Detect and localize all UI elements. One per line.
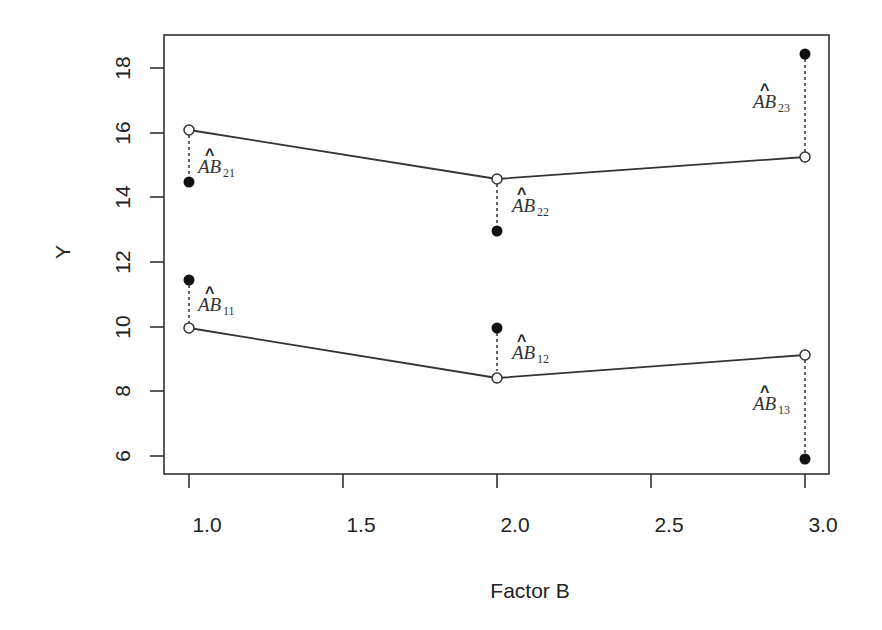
- x-tick-label: 2.5: [654, 513, 683, 536]
- annotation-ab21: ^ AB 21: [196, 146, 235, 180]
- y-tick-labels: 6 8 10 12 14 16 18: [111, 56, 134, 462]
- svg-text:AB: AB: [751, 393, 777, 414]
- svg-text:AB: AB: [510, 342, 536, 363]
- y-tick-label: 8: [111, 385, 134, 397]
- svg-text:21: 21: [223, 166, 235, 180]
- svg-text:AB: AB: [510, 195, 536, 216]
- x-tick-labels: 1.0 1.5 2.0 2.5 3.0: [192, 513, 837, 536]
- interaction-chart: 6 8 10 12 14 16 18 Y 1.0 1.5 2.0 2.5 3.0…: [0, 0, 882, 630]
- x-tick-label: 1.5: [346, 513, 375, 536]
- annotation-ab23: ^ AB 23: [751, 81, 790, 115]
- x-tick-label: 1.0: [192, 513, 221, 536]
- annotation-ab12: ^ AB 12: [510, 332, 549, 366]
- y-tick-label: 16: [111, 121, 134, 144]
- y-axis: [150, 68, 164, 456]
- y-tick-label: 14: [111, 185, 134, 209]
- residual-segments: [189, 59, 805, 454]
- x-axis-title: Factor B: [490, 579, 569, 602]
- y-tick-label: 10: [111, 315, 134, 338]
- fitted-line-a2: [189, 130, 805, 179]
- y-axis-title: Y: [51, 245, 74, 259]
- svg-text:12: 12: [537, 352, 549, 366]
- annotation-ab11: ^ AB 11: [196, 284, 235, 318]
- svg-text:13: 13: [778, 403, 790, 417]
- svg-text:11: 11: [223, 304, 235, 318]
- svg-text:AB: AB: [196, 294, 222, 315]
- svg-text:22: 22: [537, 205, 549, 219]
- plot-frame: [164, 35, 829, 474]
- y-tick-label: 18: [111, 56, 134, 79]
- y-tick-label: 12: [111, 250, 134, 273]
- annotation-ab13: ^ AB 13: [751, 383, 790, 417]
- y-tick-label: 6: [111, 450, 134, 462]
- svg-text:23: 23: [778, 101, 790, 115]
- svg-text:AB: AB: [751, 91, 777, 112]
- x-tick-label: 2.0: [500, 513, 529, 536]
- observed-points: [184, 49, 811, 465]
- x-tick-label: 3.0: [808, 513, 837, 536]
- annotation-ab22: ^ AB 22: [510, 185, 549, 219]
- svg-text:AB: AB: [196, 156, 222, 177]
- x-axis: [189, 474, 805, 488]
